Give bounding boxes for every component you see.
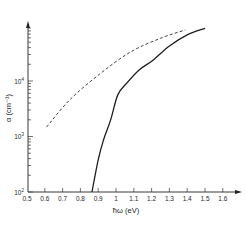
ticks [28, 28, 223, 192]
absorption-chart: 0.50.60.70.80.911.11.21.31.41.51.6 10210… [0, 0, 246, 225]
x-tick-label: 1 [114, 195, 118, 202]
x-tick-label: 1.3 [165, 195, 174, 202]
x-tick-label: 0.5 [22, 195, 31, 202]
x-axis-title: ħω (eV) [113, 206, 140, 215]
x-tick-label: 1.1 [129, 195, 138, 202]
y-tick-label: 103 [14, 132, 24, 140]
solid-curve [92, 28, 205, 192]
y-tick-labels: 102103104 [14, 77, 24, 196]
y-tick-label: 104 [14, 77, 24, 85]
x-tick-label: 0.8 [76, 195, 85, 202]
x-tick-label: 1.5 [200, 195, 209, 202]
x-tick-label: 0.9 [94, 195, 103, 202]
x-axis-arrow-icon [235, 190, 242, 194]
y-axis-title: α (cm⁻¹) [4, 94, 13, 122]
x-tick-label: 0.7 [58, 195, 67, 202]
x-tick-label: 1.4 [183, 195, 192, 202]
x-tick-labels: 0.50.60.70.80.911.11.21.31.41.51.6 [22, 195, 227, 202]
axes [26, 21, 242, 194]
x-tick-label: 1.6 [218, 195, 227, 202]
x-tick-label: 1.2 [147, 195, 156, 202]
dashed-curve [47, 30, 186, 127]
y-axis-arrow-icon [26, 21, 30, 28]
x-tick-label: 0.6 [40, 195, 49, 202]
